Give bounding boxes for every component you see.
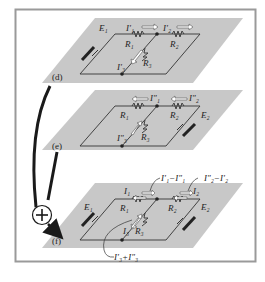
panel-label-e: (e): [52, 141, 62, 151]
label-i3-f: I₃: [122, 226, 129, 236]
superposition-diagram: E₁ R₁ R₂ R₃ I′₁ I′₂ I′₃ (d) E₂ R₁ R₂ R₃ …: [0, 0, 265, 282]
label-e1: E₁: [98, 23, 108, 33]
label-r3-e: R₃: [140, 132, 150, 142]
label-i1: I′₁: [125, 23, 134, 33]
label-r3: R₃: [142, 58, 152, 68]
label-r1: R₁: [124, 39, 134, 49]
annotation-i3-sum: I′₃+I″₃: [113, 252, 138, 262]
label-i3: I′₃: [116, 62, 125, 72]
label-r2: R₂: [169, 39, 179, 49]
panel-label-d: (d): [52, 72, 63, 82]
label-i2: I′₂: [162, 23, 171, 33]
label-i2pp: I″₂: [188, 93, 199, 103]
label-r1-f: R₁: [119, 203, 129, 213]
label-e2: E₂: [200, 110, 210, 120]
panel-label-f: (f): [52, 236, 61, 246]
annotation-i1-diff: I′₁−I″₁: [160, 173, 185, 183]
label-r3-f: R₃: [134, 226, 144, 236]
annotation-i2-diff: I″₂−I′₂: [203, 173, 228, 183]
label-i1-f: I₁: [123, 186, 130, 196]
label-r2-e: R₂: [169, 110, 179, 120]
label-e2-f: E₂: [200, 202, 210, 212]
label-r1-e: R₁: [119, 110, 129, 120]
label-i2-f: I₂: [192, 186, 199, 196]
label-r2-f: R₂: [167, 203, 177, 213]
label-i3pp: I″₃: [116, 133, 127, 143]
label-e1-f: E₁: [83, 202, 93, 212]
label-i1pp: I″₁: [149, 93, 160, 103]
